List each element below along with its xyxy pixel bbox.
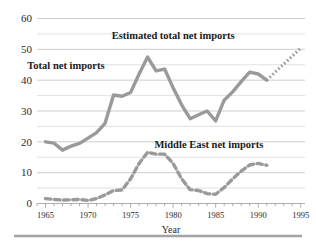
y-tick-label-30: 30 [21,105,33,117]
y-tick-label-20: 20 [21,136,33,148]
import-trends-line-chart: 0102030405060 19651970197519801985199019… [0,0,316,245]
y-tick-label-60: 60 [21,12,33,24]
y-tick-label-0: 0 [27,197,33,209]
x-tick-label-1990: 1990 [250,210,267,220]
annotation-estimated-total-net-imports: Estimated total net imports [112,30,235,41]
x-tick-label-1995: 1995 [292,210,309,220]
x-tick-label-1985: 1985 [207,210,224,220]
annotation-middle-east-net-imports: Middle East net imports [154,139,263,150]
chart-figure: 0102030405060 19651970197519801985199019… [0,0,316,245]
y-tick-label-40: 40 [21,74,33,86]
x-axis-title: Year [162,224,181,235]
annotation-total-net-imports: Total net imports [27,60,104,71]
y-tick-label-50: 50 [21,43,33,55]
x-tick-label-1970: 1970 [80,210,97,220]
x-tick-label-1975: 1975 [122,210,139,220]
x-tick-label-1980: 1980 [165,210,182,220]
y-tick-label-10: 10 [21,166,33,178]
x-tick-label-1965: 1965 [37,210,54,220]
